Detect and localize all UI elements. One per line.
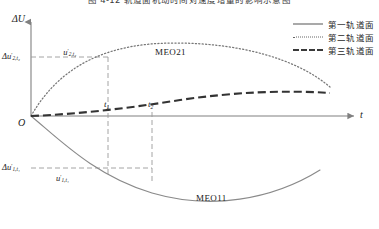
value-label-delta-u1-t1-base: Δu <box>2 162 11 172</box>
legend-label-first-orbit-plane: 第一轨道面 <box>328 18 374 30</box>
curve-label-meo21: MEO21 <box>155 48 186 57</box>
legend-item-first-orbit-plane: 第一轨道面 <box>293 18 374 29</box>
series-line-first-orbit-plane <box>31 116 320 201</box>
value-label-delta-u2-t2-base: Δu <box>2 51 11 61</box>
tick-label-t1-sub: 1 <box>107 104 110 110</box>
value-label-u2-t2: u′2,t₂ <box>63 48 76 58</box>
figure-root: 图 4-12 轨道面机动时间对速度增量的影响示意图 <box>0 0 379 229</box>
legend-label-second-orbit-plane: 第二轨道面 <box>328 31 374 43</box>
value-label-delta-u2-t2: Δu′2,t₂ <box>2 52 20 62</box>
legend-label-third-orbit-plane: 第三轨道面 <box>328 44 374 56</box>
chart-legend: 第一轨道面 第二轨道面 第三轨道面 <box>293 18 374 55</box>
legend-swatch-dotted-line-icon <box>293 32 323 41</box>
curve-label-meo11: MEO11 <box>196 194 227 203</box>
value-label-delta-u1-t1-sub: 1,t₁ <box>12 166 19 172</box>
legend-swatch-solid-line-icon <box>293 19 323 28</box>
value-label-delta-u2-t2-sub: 2,t₂ <box>12 55 19 61</box>
value-label-u1-t1-sub: 1,t₁ <box>61 177 68 183</box>
legend-item-third-orbit-plane: 第三轨道面 <box>293 44 374 55</box>
value-label-u1-t1: u′1,t₁ <box>56 174 69 184</box>
guide-lines <box>31 57 152 182</box>
value-label-delta-u1-t1: Δu′1,t₁ <box>2 163 20 173</box>
series-line-third-orbit-plane <box>31 92 330 116</box>
legend-item-second-orbit-plane: 第二轨道面 <box>293 31 374 42</box>
value-label-u2-t2-sub: 2,t₂ <box>69 51 76 57</box>
tick-label-t2-sub: 2 <box>151 104 154 110</box>
origin-label: O <box>18 118 25 128</box>
tick-label-t1: t1 <box>104 100 109 110</box>
legend-swatch-dashed-line-icon <box>293 45 323 54</box>
x-axis-label: t <box>360 110 363 120</box>
y-axis-label: ΔU <box>12 14 25 24</box>
tick-label-t2: t2 <box>148 100 153 110</box>
